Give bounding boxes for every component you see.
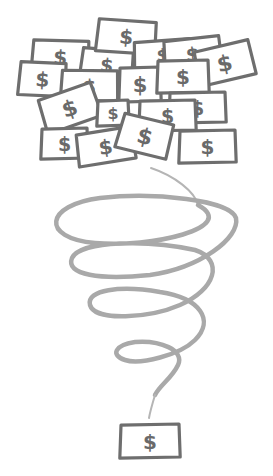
dollar-sign-icon: $: [107, 104, 118, 123]
dollar-sign-icon: $: [201, 135, 215, 159]
dollar-sign-icon: $: [58, 133, 71, 155]
spiral-icon: [56, 168, 236, 418]
dollar-bill: $: [120, 424, 180, 458]
dollar-bill: $: [119, 67, 161, 102]
dollar-bill: $: [157, 60, 209, 93]
dollar-sign-icon: $: [143, 430, 157, 454]
dollar-sign-icon: $: [176, 65, 190, 89]
money-pile: $$$$$$$$$$$$$$$$$$: [18, 17, 257, 167]
dollar-sign-icon: $: [118, 24, 134, 49]
single-dollar-bill: $: [120, 424, 180, 458]
dollar-bill: $: [179, 130, 236, 163]
money-funnel-illustration: $$$$$$$$$$$$$$$$$$ $: [0, 0, 273, 476]
dollar-sign-icon: $: [35, 67, 51, 92]
dollar-sign-icon: $: [133, 73, 148, 97]
